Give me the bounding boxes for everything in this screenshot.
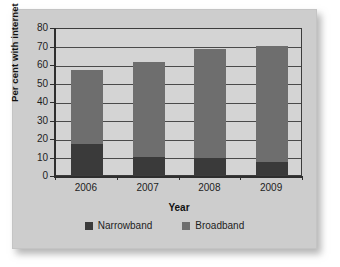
bar-segment-broadband[interactable] bbox=[71, 70, 103, 144]
legend-swatch-broadband bbox=[182, 222, 190, 230]
x-axis-tick-label: 2008 bbox=[198, 183, 220, 193]
y-axis-tick-label: 20 bbox=[37, 134, 48, 144]
y-axis-tick-label: 60 bbox=[37, 60, 48, 70]
plot-area bbox=[55, 28, 302, 176]
bar-segment-narrowband[interactable] bbox=[194, 158, 226, 175]
bar-segment-narrowband[interactable] bbox=[133, 157, 165, 176]
y-axis-tick-label: 80 bbox=[37, 23, 48, 33]
chart-legend: Narrowband Broadband bbox=[13, 221, 316, 231]
y-axis-tick-label: 0 bbox=[42, 171, 48, 181]
legend-label-narrowband: Narrowband bbox=[98, 221, 152, 231]
y-axis-tick-label: 70 bbox=[37, 42, 48, 52]
y-axis-line bbox=[54, 28, 56, 177]
x-axis-title: Year bbox=[55, 202, 303, 213]
legend-label-broadband: Broadband bbox=[195, 221, 244, 231]
bar-segment-broadband[interactable] bbox=[133, 62, 165, 156]
bar-stack[interactable] bbox=[71, 29, 103, 175]
x-axis-tick-label: 2009 bbox=[260, 183, 282, 193]
y-axis-tick-label: 40 bbox=[37, 97, 48, 107]
y-axis-tick-label: 50 bbox=[37, 79, 48, 89]
bar-stack[interactable] bbox=[133, 29, 165, 175]
plot-wrapper: 010203040506070802006200720082009 bbox=[55, 28, 302, 176]
legend-item-narrowband: Narrowband bbox=[85, 221, 152, 231]
y-axis-tick-label: 30 bbox=[37, 116, 48, 126]
bar-segment-broadband[interactable] bbox=[194, 49, 226, 158]
legend-item-broadband: Broadband bbox=[182, 221, 244, 231]
bar-segment-broadband[interactable] bbox=[256, 46, 288, 163]
legend-swatch-narrowband bbox=[85, 222, 93, 230]
bar-segment-narrowband[interactable] bbox=[256, 162, 288, 175]
bar-stack[interactable] bbox=[256, 29, 288, 175]
bar-stack[interactable] bbox=[194, 29, 226, 175]
x-axis-tick-label: 2007 bbox=[137, 183, 159, 193]
bar-segment-narrowband[interactable] bbox=[71, 144, 103, 175]
y-axis-tick-label: 10 bbox=[37, 153, 48, 163]
x-axis-tick-label: 2006 bbox=[75, 183, 97, 193]
x-axis-line bbox=[54, 176, 303, 178]
y-axis-title: Per cent with internet bbox=[9, 3, 20, 102]
chart-figure-card: Per cent with internet 01020304050607080… bbox=[12, 9, 317, 249]
